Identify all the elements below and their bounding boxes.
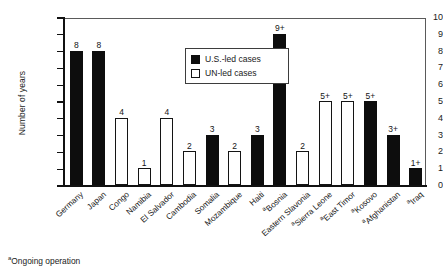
bar-germany: 8 <box>70 51 83 185</box>
bar-value-label: 4 <box>119 108 124 117</box>
bar-congo: 4 <box>115 118 128 185</box>
bar-value-label: 5+ <box>366 92 376 101</box>
bar-value-label: 2 <box>232 142 237 151</box>
bar-value-label: 2 <box>300 142 305 151</box>
bar-somalia: 3 <box>206 135 219 185</box>
bar-el-salvador: 4 <box>160 118 173 185</box>
bar-value-label: 5+ <box>320 92 330 101</box>
bar-value-label: 8 <box>74 41 79 50</box>
legend-swatch-un-led <box>191 69 200 78</box>
legend-item-us-led: U.S.-led cases <box>191 52 283 66</box>
bar-chart-figure: Number of years 012345678910 8841423239+… <box>0 0 443 276</box>
bar-value-label: 8 <box>97 41 102 50</box>
bar-sierra-leone: 5+ <box>319 101 332 185</box>
bar-haiti: 3 <box>251 135 264 185</box>
footnote-text: Ongoing operation <box>11 256 80 266</box>
bar-mozambique: 2 <box>228 151 241 185</box>
y-axis-line <box>63 17 65 187</box>
x-label-text: Japan <box>85 190 108 212</box>
bar-namibia: 1 <box>138 168 151 185</box>
bar-japan: 8 <box>92 51 105 185</box>
legend-swatch-us-led <box>191 55 200 64</box>
x-label-text: Germany <box>54 190 85 219</box>
bar-value-label: 4 <box>164 108 169 117</box>
bar-east-timor: 5+ <box>341 101 354 185</box>
chart-legend: U.S.-led cases UN-led cases <box>185 48 289 84</box>
x-axis-label-iraq: aIraq <box>406 190 425 208</box>
legend-label-un-led: UN-led cases <box>205 69 257 78</box>
bar-value-label: 3 <box>255 125 260 134</box>
x-label-text: Iraq <box>408 190 425 206</box>
bar-value-label: 1+ <box>411 159 421 168</box>
bar-kosovo: 5+ <box>364 101 377 185</box>
bar-eastern-slavonia: 2 <box>296 151 309 185</box>
bar-value-label: 1 <box>142 159 147 168</box>
x-axis-line <box>63 185 427 187</box>
bar-value-label: 3+ <box>388 125 398 134</box>
bar-value-label: 3 <box>210 125 215 134</box>
y-axis-title: Number of years <box>17 43 27 163</box>
x-axis-label-germany: Germany <box>54 190 85 219</box>
bar-afghanistan: 3+ <box>387 135 400 185</box>
x-axis-label-japan: Japan <box>85 190 108 212</box>
legend-item-un-led: UN-led cases <box>191 66 283 80</box>
bar-value-label: 2 <box>187 142 192 151</box>
chart-footnote: aOngoing operation <box>8 256 80 266</box>
plot-area: 8841423239+25+5+5+3+1+ U.S.-led cases UN… <box>64 18 426 186</box>
bar-iraq: 1+ <box>409 168 422 185</box>
legend-label-us-led: U.S.-led cases <box>205 55 261 64</box>
bar-value-label: 5+ <box>343 92 353 101</box>
bar-cambodia: 2 <box>183 151 196 185</box>
bar-value-label: 9+ <box>275 24 285 33</box>
